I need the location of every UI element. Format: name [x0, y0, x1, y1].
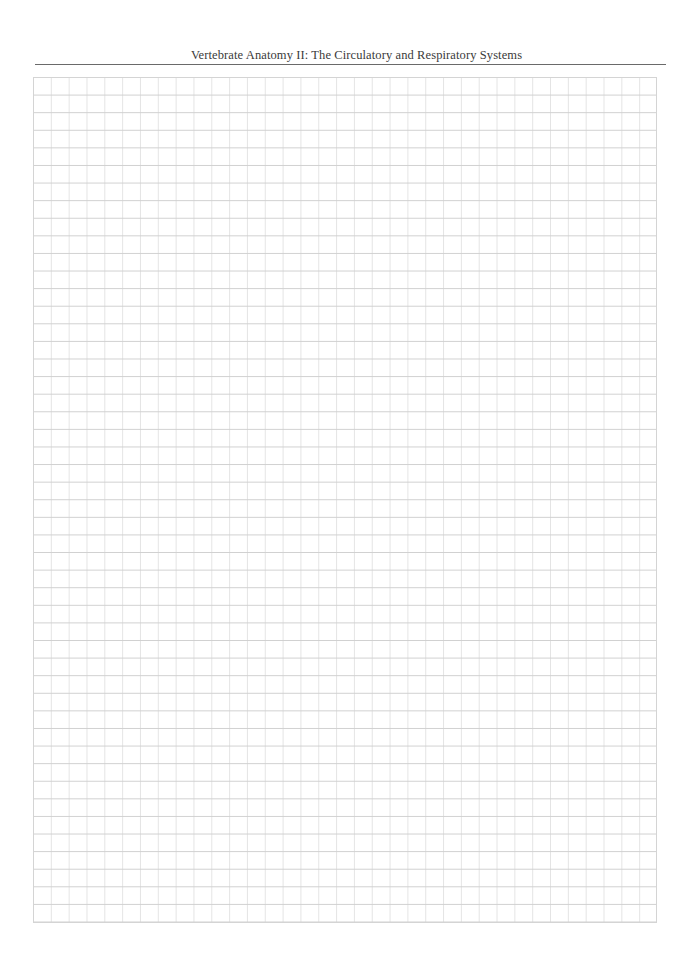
graph-paper-grid	[33, 77, 657, 923]
running-header: Vertebrate Anatomy II: The Circulatory a…	[35, 44, 666, 65]
header-title: Vertebrate Anatomy II: The Circulatory a…	[191, 46, 522, 64]
